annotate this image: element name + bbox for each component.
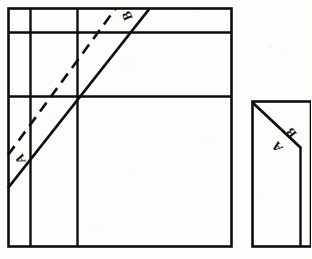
line-drawing-canvas: [0, 0, 311, 259]
right-figure-outer-frame: [253, 102, 312, 247]
drawing-page: A B A B: [0, 0, 311, 259]
scan-artifacts: [51, 11, 290, 227]
right-figure: [253, 102, 312, 247]
left-figure-dashed-diagonal: [8, 8, 116, 155]
left-figure: [8, 8, 232, 247]
